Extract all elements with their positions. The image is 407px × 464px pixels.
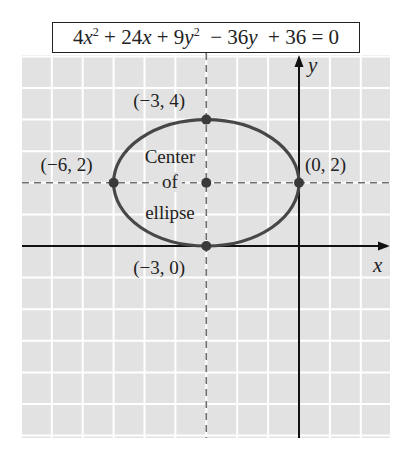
top-vertex-label: (−3, 4) xyxy=(133,90,185,112)
center-point xyxy=(201,178,211,188)
bottom-vertex-label: (−3, 0) xyxy=(133,257,185,279)
annotation-center-of-ellipse: of xyxy=(162,171,179,192)
bottom-vertex xyxy=(201,241,211,251)
right-vertex xyxy=(294,178,304,188)
annotation-center-of-ellipse: Center xyxy=(145,146,196,167)
y-axis-label: y xyxy=(306,53,318,77)
top-vertex xyxy=(201,115,211,125)
annotation-center-of-ellipse: ellipse xyxy=(145,202,195,223)
left-vertex-label: (−6, 2) xyxy=(41,154,93,176)
right-vertex-label: (0, 2) xyxy=(305,154,346,176)
ellipse-graph: (−3, 4)(−6, 2)(0, 2)(−3, 0)Centerofellip… xyxy=(0,0,407,464)
left-vertex xyxy=(109,178,119,188)
x-axis-label: x xyxy=(372,253,383,277)
